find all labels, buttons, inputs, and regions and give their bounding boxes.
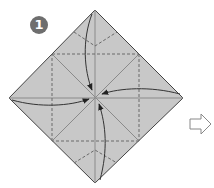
- next-step-arrow-icon: [190, 114, 211, 134]
- origami-fold-diagram: [0, 0, 214, 188]
